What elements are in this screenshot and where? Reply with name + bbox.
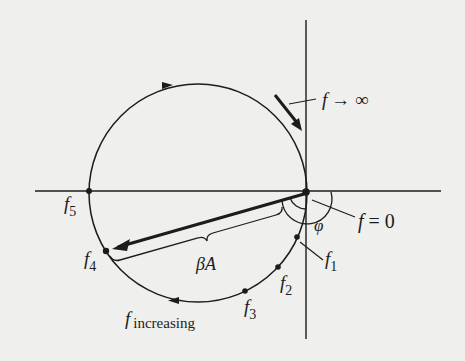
point-f3	[242, 288, 248, 294]
label-phi: φ	[314, 216, 323, 235]
label-beta-a: βA	[195, 254, 217, 274]
point-f2	[275, 264, 281, 270]
diagram-canvas: f→ ∞ f= 0 φ βA f1 f2 f3 f4 f5 fincreasin…	[0, 0, 465, 361]
beta-a-vector	[118, 194, 304, 247]
point-f1	[294, 234, 300, 240]
label-f-zero: f= 0	[358, 210, 395, 233]
f-infinity-leader	[289, 99, 316, 104]
label-f2: f2	[280, 272, 292, 298]
label-f-increasing: fincreasing	[125, 308, 195, 331]
f1-leader	[300, 242, 323, 260]
point-f0	[302, 188, 310, 196]
inner-angle-arc	[290, 198, 306, 209]
label-f-infinity: f→ ∞	[322, 89, 369, 110]
beta-a-brace	[110, 207, 282, 261]
loop-gain-diagram: f→ ∞ f= 0 φ βA f1 f2 f3 f4 f5 fincreasin…	[0, 0, 465, 361]
beta-a-arrowhead-icon	[112, 239, 130, 251]
f-infinity-arrowhead-icon	[291, 118, 302, 131]
f-zero-leader	[312, 200, 355, 217]
label-f1: f1	[325, 248, 337, 274]
label-f3: f3	[244, 296, 256, 322]
point-f4	[103, 248, 109, 254]
label-f5: f5	[64, 193, 76, 219]
label-f4: f4	[84, 248, 96, 274]
point-f5	[86, 188, 92, 194]
